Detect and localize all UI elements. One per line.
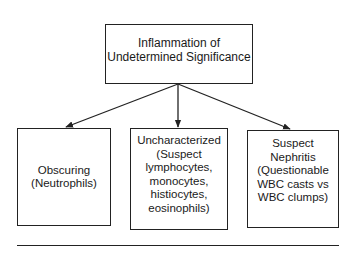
- bottom-divider: [17, 245, 339, 246]
- obscuring-node-label: Obscuring (Neutrophils): [31, 164, 97, 191]
- suspect-nephritis-node-box: Suspect Nephritis (Questionable WBC cast…: [247, 130, 339, 228]
- obscuring-node-box: Obscuring (Neutrophils): [17, 128, 111, 226]
- arrow-to-suspect-nephritis: [178, 84, 290, 129]
- arrow-to-obscuring: [66, 84, 178, 127]
- uncharacterized-node-label: Uncharacterized (Suspect lymphocytes, mo…: [137, 134, 221, 215]
- uncharacterized-node-box: Uncharacterized (Suspect lymphocytes, mo…: [130, 128, 228, 230]
- suspect-nephritis-node-label: Suspect Nephritis (Questionable WBC cast…: [257, 137, 329, 205]
